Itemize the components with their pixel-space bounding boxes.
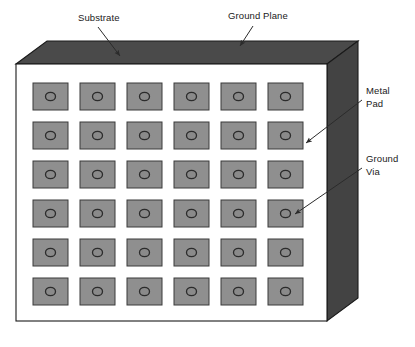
- ground-via[interactable]: [140, 209, 150, 217]
- ground-plane-top-face: [16, 41, 358, 64]
- ground-via-highlighted[interactable]: [281, 209, 291, 217]
- pad-row4-col4[interactable]: [174, 200, 209, 227]
- pad-row2-col4[interactable]: [174, 122, 209, 149]
- ground-via[interactable]: [140, 170, 150, 178]
- ground-via[interactable]: [93, 209, 103, 217]
- pad-row6-col3[interactable]: [127, 278, 162, 305]
- label-ground-plane: Ground Plane: [228, 10, 288, 23]
- ground-via[interactable]: [46, 287, 56, 295]
- pad-row6-col5[interactable]: [221, 278, 256, 305]
- pad-row2-col5[interactable]: [221, 122, 256, 149]
- ground-via[interactable]: [187, 287, 197, 295]
- pad-row1-col2[interactable]: [80, 83, 115, 110]
- ground-via[interactable]: [140, 248, 150, 256]
- ground-via[interactable]: [281, 170, 291, 178]
- ground-via[interactable]: [234, 170, 244, 178]
- label-metal-pad: MetalPad: [366, 85, 390, 110]
- ground-via[interactable]: [93, 131, 103, 139]
- figure-canvas: Substrate Ground Plane MetalPad GroundVi…: [0, 0, 415, 347]
- label-ground-via-line1: Ground: [366, 153, 398, 164]
- pad-row3-col6[interactable]: [268, 161, 303, 188]
- ground-via[interactable]: [234, 248, 244, 256]
- pad-row3-col5[interactable]: [221, 161, 256, 188]
- pad-row2-col6[interactable]: [268, 122, 303, 149]
- ground-via[interactable]: [46, 209, 56, 217]
- ground-via[interactable]: [46, 248, 56, 256]
- ground-via[interactable]: [281, 248, 291, 256]
- pad-row3-col1[interactable]: [33, 161, 68, 188]
- pad-row5-col4[interactable]: [174, 239, 209, 266]
- pad-row1-col4[interactable]: [174, 83, 209, 110]
- pad-row5-col3[interactable]: [127, 239, 162, 266]
- ground-via[interactable]: [140, 92, 150, 100]
- ground-via[interactable]: [187, 92, 197, 100]
- pad-row2-col3[interactable]: [127, 122, 162, 149]
- label-substrate: Substrate: [78, 12, 120, 25]
- pad-row3-col4[interactable]: [174, 161, 209, 188]
- pad-row4-col3[interactable]: [127, 200, 162, 227]
- pad-row3-col2[interactable]: [80, 161, 115, 188]
- pad-row3-col3[interactable]: [127, 161, 162, 188]
- pad-row1-col5[interactable]: [221, 83, 256, 110]
- pad-row6-col4[interactable]: [174, 278, 209, 305]
- pad-row4-col1[interactable]: [33, 200, 68, 227]
- ground-via[interactable]: [234, 92, 244, 100]
- ground-via[interactable]: [281, 92, 291, 100]
- pad-row1-col3[interactable]: [127, 83, 162, 110]
- pad-row5-col2[interactable]: [80, 239, 115, 266]
- pad-row2-col1[interactable]: [33, 122, 68, 149]
- ground-via[interactable]: [187, 170, 197, 178]
- ground-via[interactable]: [187, 131, 197, 139]
- pad-row5-col5[interactable]: [221, 239, 256, 266]
- ground-via[interactable]: [234, 287, 244, 295]
- ground-via[interactable]: [46, 131, 56, 139]
- ground-via[interactable]: [281, 287, 291, 295]
- ground-via[interactable]: [93, 170, 103, 178]
- pad-row1-col1[interactable]: [33, 83, 68, 110]
- ground-via[interactable]: [93, 92, 103, 100]
- ground-via[interactable]: [234, 131, 244, 139]
- ground-via[interactable]: [46, 170, 56, 178]
- ground-via[interactable]: [187, 248, 197, 256]
- pad-row6-col6[interactable]: [268, 278, 303, 305]
- pad-row4-col5[interactable]: [221, 200, 256, 227]
- label-metal-pad-line1: Metal: [366, 85, 390, 96]
- ground-via[interactable]: [46, 92, 56, 100]
- ground-via[interactable]: [140, 287, 150, 295]
- pad-row5-col1[interactable]: [33, 239, 68, 266]
- ground-via[interactable]: [281, 131, 291, 139]
- pad-row4-col2[interactable]: [80, 200, 115, 227]
- pad-row6-col2[interactable]: [80, 278, 115, 305]
- label-metal-pad-line2: Pad: [366, 98, 383, 109]
- pad-row1-col6[interactable]: [268, 83, 303, 110]
- pad-row5-col6[interactable]: [268, 239, 303, 266]
- ground-via[interactable]: [93, 287, 103, 295]
- pad-row4-col6[interactable]: [268, 200, 303, 227]
- ground-via[interactable]: [187, 209, 197, 217]
- pcb-illustration: [0, 0, 415, 347]
- pad-row6-col1[interactable]: [33, 278, 68, 305]
- ground-via[interactable]: [93, 248, 103, 256]
- ground-via[interactable]: [234, 209, 244, 217]
- label-ground-via: GroundVia: [366, 153, 398, 178]
- pad-row2-col2[interactable]: [80, 122, 115, 149]
- ground-via[interactable]: [140, 131, 150, 139]
- label-ground-via-line2: Via: [366, 166, 380, 177]
